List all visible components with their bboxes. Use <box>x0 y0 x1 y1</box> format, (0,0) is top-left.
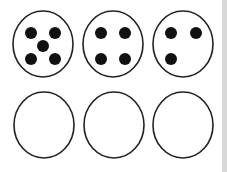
empty-circle-1 <box>14 92 74 158</box>
dot <box>190 27 202 39</box>
circle-four-dots <box>83 11 143 77</box>
dot <box>49 27 61 39</box>
dot <box>95 27 107 39</box>
dot <box>25 27 37 39</box>
page-edge <box>222 0 227 172</box>
dot <box>119 53 131 65</box>
dot <box>95 53 107 65</box>
dot <box>165 53 177 65</box>
empty-circle-3 <box>153 92 213 158</box>
empty-circle-2 <box>84 92 144 158</box>
dot <box>25 53 37 65</box>
circle-three-dots <box>153 11 213 77</box>
dot <box>37 40 49 52</box>
dot <box>49 53 61 65</box>
dot <box>119 27 131 39</box>
dot-worksheet <box>0 0 227 172</box>
dot <box>165 27 177 39</box>
